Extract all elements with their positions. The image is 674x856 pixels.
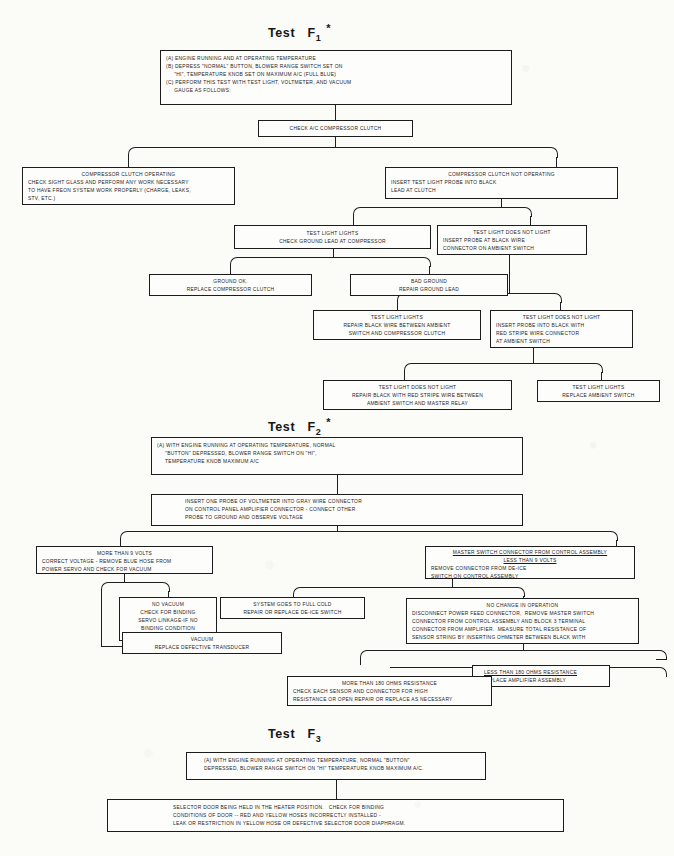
connector-f1-to-repair-black	[397, 302, 398, 310]
test-f2-label: Test	[268, 420, 295, 434]
connector-f1-to-lights-ground	[353, 216, 354, 225]
box-f3-selector-door: SELECTOR DOOR BEING HELD IN THE HEATER P…	[107, 799, 564, 832]
f1-intro-line-2: (B) DEPRESS "NORMAL" BUTTON, BLOWER RANG…	[166, 63, 506, 71]
f2-no-change-heading: NO CHANGE IN OPERATION	[412, 602, 633, 610]
elbow-f2-split-left	[120, 531, 339, 541]
f1-replace-ambient-heading: TEST LIGHT LIGHTS	[543, 384, 654, 392]
connector-f1-ambient-down	[509, 255, 510, 293]
connector-f1-redstripe-down	[533, 348, 534, 363]
box-f1-repair-black-wire: TEST LIGHT LIGHTS REPAIR BLACK WIRE BETW…	[313, 310, 481, 340]
test-f2-footnote: *	[326, 416, 331, 428]
elbow-f1-ambient-right	[509, 293, 562, 303]
test-f3-name: F	[307, 727, 315, 741]
box-f2-no-change: NO CHANGE IN OPERATION DISCONNECT POWER …	[406, 598, 639, 644]
connector-f1-lights-down	[333, 249, 334, 257]
elbow-f1-redstripe-right	[533, 363, 603, 373]
test-f3-title: Test F3	[268, 727, 321, 744]
f2-less9-line-1: REMOVE CONNECTOR FROM DE-ICE	[431, 565, 629, 573]
elbow-f2-nochange-left	[360, 650, 525, 660]
f1-master-relay-line-2: AMBIENT SWITCH AND MASTER RELAY	[329, 400, 506, 408]
f1-clutch-operating-heading: COMPRESSOR CLUTCH OPERATING	[28, 171, 229, 179]
elbow-f1-split-right	[335, 147, 558, 158]
f2-no-change-line-5: WHITE STRIPE WIRE AND GREEN WIRE ON AMPL…	[412, 642, 633, 644]
f2-intro-line-3: TEMPERATURE KNOB MAXIMUM A/C	[157, 458, 517, 466]
f2-more180-line-1: CHECK EACH SENSOR AND CONNECTOR FOR HIGH	[293, 688, 486, 696]
f3-intro-line-2: DEPRESSED, BLOWER RANGE SWITCH ON "HI" T…	[192, 765, 480, 773]
test-f2-title: Test F2*	[268, 416, 331, 437]
test-f1-label: Test	[268, 26, 295, 40]
f1-repair-black-line-1: REPAIR BLACK WIRE BETWEEN AMBIENT	[319, 322, 475, 330]
connector-f2-to-more180-stub	[656, 659, 666, 660]
elbow-f1-notop-left	[353, 207, 503, 217]
f2-intro-line-1: (A) WITH ENGINE RUNNING AT OPERATING TEM…	[157, 442, 517, 450]
f3-selector-line-1: SELECTOR DOOR BEING HELD IN THE HEATER P…	[113, 804, 558, 812]
f1-intro-line-5: GAUGE AS FOLLOWS:	[166, 87, 506, 95]
f2-more9-heading: MORE THAN 9 VOLTS	[42, 550, 207, 558]
connector-f2-to-less180	[360, 659, 361, 665]
test-f2-subscript: 2	[316, 427, 322, 437]
f1-ground-ok-heading: GROUND OK.	[155, 278, 306, 286]
connector-f3-intro-to-selector	[336, 780, 337, 799]
f2-more180-heading: MORE THAN 180 OHMS RESISTANCE	[293, 680, 486, 688]
elbow-f1-notop-right	[501, 207, 532, 217]
test-f1-title: Test F1*	[268, 22, 331, 43]
elbow-f1-lights-left	[230, 257, 335, 267]
f2-less9-heading-1: MASTER SWITCH CONNECTOR FROM CONTROL ASS…	[431, 549, 629, 557]
connector-f2-less9-down	[452, 579, 453, 587]
f2-more9-line-2: POWER SERVO AND CHECK FOR VACUUM	[42, 566, 207, 574]
box-f1-clutch-not-operating: COMPRESSOR CLUTCH NOT OPERATING INSERT T…	[385, 167, 618, 199]
f1-clutch-not-operating-line-1: INSERT TEST LIGHT PROBE INTO BLACK	[391, 179, 612, 187]
box-f1-clutch-operating: COMPRESSOR CLUTCH OPERATING CHECK SIGHT …	[22, 167, 235, 205]
f1-replace-ambient-line-1: REPLACE AMBIENT SWITCH	[543, 392, 654, 400]
box-f1-notlight-redstripe: TEST LIGHT DOES NOT LIGHT INSERT PROBE I…	[490, 310, 633, 348]
connector-f2-intro-to-voltmeter	[337, 475, 338, 494]
f1-repair-black-line-2: SWITCH AND COMPRESSOR CLUTCH	[319, 330, 475, 338]
elbow-f1-split-left	[128, 147, 337, 158]
test-f2-name: F	[307, 420, 315, 434]
f2-no-vacuum-line-1: NO VACUUM	[125, 601, 211, 609]
box-f1-intro: (A) ENGINE RUNNING AND AT OPERATING TEMP…	[160, 50, 512, 105]
test-f3-subscript: 3	[316, 734, 322, 744]
box-f2-voltmeter: INSERT ONE PROBE OF VOLTMETER INTO GRAY …	[151, 494, 523, 526]
f1-intro-line-4: (C) PERFORM THIS TEST WITH TEST LIGHT, V…	[166, 79, 506, 87]
f1-notlight-redstripe-heading: TEST LIGHT DOES NOT LIGHT	[496, 314, 627, 322]
f1-notlight-ambient-heading: TEST LIGHT DOES NOT LIGHT	[443, 229, 581, 237]
connector-f1-check-down	[335, 137, 336, 147]
box-f1-replace-ambient: TEST LIGHT LIGHTS REPLACE AMBIENT SWITCH	[537, 380, 660, 402]
f1-bad-ground-heading: BAD GROUND	[356, 278, 502, 286]
f2-more180-line-2: RESISTANCE OR OPEN REPAIR OR REPLACE AS …	[293, 696, 486, 704]
box-f1-notlight-ambient: TEST LIGHT DOES NOT LIGHT INSERT PROBE A…	[437, 225, 587, 255]
box-f2-more-than-9: MORE THAN 9 VOLTS CORRECT VOLTAGE - REMO…	[36, 546, 213, 574]
box-f1-bad-ground: BAD GROUND REPAIR GROUND LEAD	[350, 274, 508, 296]
f2-full-cold-line-1: REPAIR OR REPLACE DE-ICE SWITCH	[226, 609, 359, 617]
f2-intro-line-2: "BUTTON" DEPRESSED, BLOWER RANGE SWITCH …	[157, 450, 517, 458]
elbow-f1-lights-right	[333, 257, 431, 267]
f3-selector-line-3: LEAK OR RESTRICTION IN YELLOW HOSE OR DE…	[113, 820, 558, 828]
elbow-f2-split-right	[337, 531, 618, 541]
f1-light-lights-ground-line-1: CHECK GROUND LEAD AT COMPRESSOR	[240, 238, 425, 246]
test-f1-footnote: *	[326, 22, 331, 34]
f3-intro-line-1: (A) WITH ENGINE RUNNING AT OPERATING TEM…	[192, 757, 480, 765]
elbow-f2-nochange-right	[523, 650, 667, 660]
f1-master-relay-heading: TEST LIGHT DOES NOT LIGHT	[329, 384, 506, 392]
f2-no-change-line-2: CONNECTOR FROM CONTROL ASSEMBLY AND BLOC…	[412, 618, 633, 626]
connector-f2-vacuum-in	[101, 646, 123, 647]
f1-master-relay-line-1: REPAIR BLACK WITH RED STRIPE WIRE BETWEE…	[329, 392, 506, 400]
connector-f1-to-operating	[128, 157, 129, 167]
f2-no-change-line-3: CONNECTOR FROM AMPLIFIER. MEASURE TOTAL …	[412, 626, 633, 634]
connector-f1-to-master-relay	[404, 372, 405, 380]
f1-intro-line-1: (A) ENGINE RUNNING AND AT OPERATING TEMP…	[166, 55, 506, 63]
box-f3-intro: (A) WITH ENGINE RUNNING AT OPERATING TEM…	[186, 752, 486, 780]
f2-less180-heading: LESS THAN 180 OHMS RESISTANCE	[478, 669, 604, 677]
f1-repair-black-heading: TEST LIGHT LIGHTS	[319, 314, 475, 322]
f2-voltmeter-line-1: INSERT ONE PROBE OF VOLTMETER INTO GRAY …	[157, 498, 517, 506]
f1-notlight-ambient-line-1: INSERT PROBE AT BLACK WIRE	[443, 237, 581, 245]
f2-no-vacuum-line-3: SERVO LINKAGE-IF NO	[125, 617, 211, 625]
flowchart-page: Test F1* (A) ENGINE RUNNING AND AT OPERA…	[0, 0, 674, 856]
f2-voltmeter-line-2: ON CONTROL PANEL AMPLIFIER CONNECTOR - C…	[157, 506, 517, 514]
connector-f1-to-bad-ground	[429, 266, 430, 274]
f1-clutch-operating-line-1: CHECK SIGHT GLASS AND PERFORM ANY WORK N…	[28, 179, 229, 187]
f2-less180-line-1: REPLACE AMPLIFIER ASSEMBLY	[478, 677, 604, 685]
box-f2-more-180: MORE THAN 180 OHMS RESISTANCE CHECK EACH…	[287, 676, 492, 706]
connector-f2-to-vacuum	[101, 591, 102, 647]
